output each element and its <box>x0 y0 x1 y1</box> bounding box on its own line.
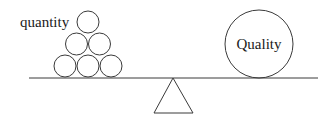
small-circle <box>77 11 99 33</box>
balance-diagram: quantity Quality <box>0 0 332 124</box>
small-circle <box>89 33 111 55</box>
small-circle <box>54 55 76 77</box>
small-circle <box>77 55 99 77</box>
quality-circle-group: Quality <box>225 10 293 78</box>
quality-label: Quality <box>237 36 282 52</box>
fulcrum-triangle <box>154 78 193 113</box>
small-circle <box>66 33 88 55</box>
quantity-label: quantity <box>20 14 70 30</box>
small-circle <box>100 55 122 77</box>
